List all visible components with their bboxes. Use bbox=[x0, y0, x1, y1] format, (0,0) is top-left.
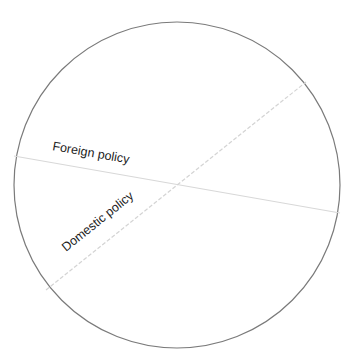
political-compass-diagram: Foreign policy Domestic policy bbox=[0, 0, 357, 359]
